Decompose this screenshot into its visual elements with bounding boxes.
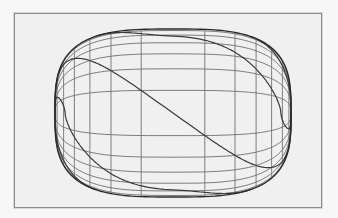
parallel-line [55, 113, 291, 136]
helical-curves [55, 33, 291, 194]
parallel-line [55, 54, 291, 113]
parallel-line [55, 113, 291, 157]
wireframe-spheroid-drawing [0, 0, 338, 218]
parallel-line [55, 43, 291, 113]
parallel-line [55, 69, 291, 113]
helix-curve [55, 58, 291, 167]
parallel-line [55, 113, 291, 172]
parallel-line [55, 113, 291, 183]
parallel-line [55, 90, 291, 113]
